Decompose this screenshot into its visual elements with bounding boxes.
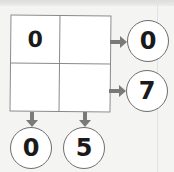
- grid-cell-r2c1[interactable]: [11, 63, 60, 111]
- grid-cell-r2c2[interactable]: [60, 64, 110, 112]
- row1-arrow-icon: [110, 40, 121, 44]
- col2-output-circle: 5: [63, 127, 105, 169]
- grid-cell-r1c1[interactable]: 0: [11, 15, 60, 64]
- col1-output-circle: 0: [10, 127, 52, 169]
- row1-output-circle: 0: [127, 20, 169, 62]
- row2-arrow-icon: [109, 89, 120, 93]
- row2-output-circle: 7: [126, 70, 168, 112]
- page-top-shadow: [0, 0, 174, 6]
- puzzle-grid: 0: [9, 14, 111, 112]
- col2-arrow-icon: [83, 112, 87, 121]
- grid-cell-r1c2[interactable]: [60, 16, 110, 65]
- col1-arrow-icon: [30, 112, 34, 121]
